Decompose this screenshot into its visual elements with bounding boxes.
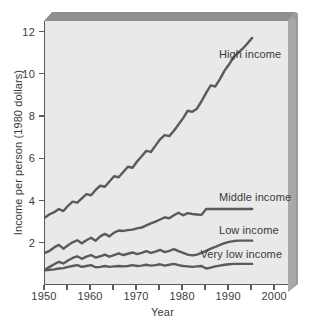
x-tick bbox=[158, 285, 159, 290]
x-tick bbox=[250, 285, 251, 290]
series-label: Very low income bbox=[201, 248, 283, 260]
series-label: High income bbox=[219, 48, 281, 60]
series-label: Low income bbox=[219, 224, 279, 236]
y-tick bbox=[39, 31, 44, 32]
y-tick bbox=[39, 158, 44, 159]
x-tick-label: 1980 bbox=[169, 290, 194, 302]
x-tick bbox=[66, 285, 67, 290]
chart-figure: 24681012 195019601970198019902000 High i… bbox=[0, 0, 325, 325]
x-tick-label: 1970 bbox=[123, 290, 148, 302]
y-tick bbox=[39, 242, 44, 243]
frame-right-highlight bbox=[288, 18, 296, 292]
x-tick-label: 1950 bbox=[31, 290, 56, 302]
x-axis-title: Year bbox=[0, 306, 325, 318]
series-label: Middle income bbox=[219, 191, 291, 203]
y-tick bbox=[39, 73, 44, 74]
y-tick bbox=[39, 115, 44, 116]
x-tick-label: 2000 bbox=[262, 290, 287, 302]
plot-area bbox=[44, 21, 288, 285]
series-lines bbox=[45, 21, 289, 285]
y-tick bbox=[39, 200, 44, 201]
frame-top-bevel bbox=[44, 12, 296, 21]
y-axis-title: Income per person (1980 dollars) bbox=[12, 20, 26, 285]
x-tick-label: 1990 bbox=[216, 290, 241, 302]
x-tick-label: 1960 bbox=[77, 290, 102, 302]
series-line bbox=[45, 264, 252, 270]
x-tick bbox=[204, 285, 205, 290]
x-tick bbox=[112, 285, 113, 290]
